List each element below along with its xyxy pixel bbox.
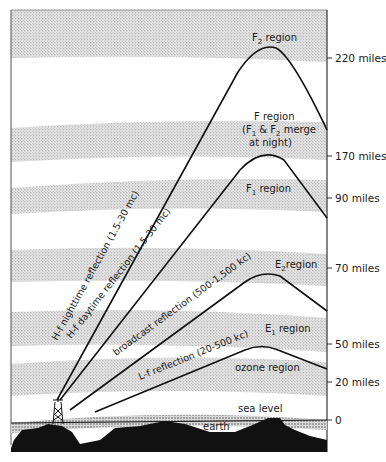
- f-region-night-label: at night): [249, 137, 292, 148]
- tick-20: 20 miles: [335, 376, 380, 388]
- ionosphere-diagram: 220 miles 170 miles 90 miles 70 miles 50…: [0, 0, 386, 462]
- ozone-region-label: ozone region: [235, 362, 300, 373]
- tick-0: 0: [335, 414, 342, 426]
- tick-50: 50 miles: [335, 338, 380, 350]
- f-region-label: F region: [254, 111, 295, 122]
- tick-220: 220 miles: [335, 52, 386, 64]
- tick-170: 170 miles: [335, 150, 386, 162]
- altitude-ticks: 220 miles 170 miles 90 miles 70 miles 50…: [327, 52, 386, 426]
- earth-ground: [11, 415, 327, 452]
- sea-level-label: sea level: [238, 403, 282, 414]
- tick-70: 70 miles: [335, 262, 380, 274]
- tick-90: 90 miles: [335, 192, 380, 204]
- earth-label: earth: [203, 421, 230, 432]
